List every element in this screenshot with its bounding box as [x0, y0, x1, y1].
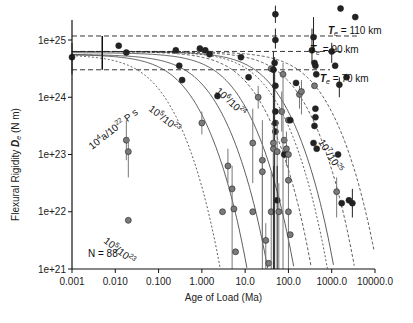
- data-point: [311, 140, 317, 146]
- data-point: [250, 140, 256, 146]
- data-point: [272, 37, 278, 43]
- data-point: [225, 163, 231, 169]
- data-point: [270, 67, 276, 73]
- x-tick-label: 10.0: [235, 276, 255, 287]
- data-point: [274, 149, 280, 155]
- data-point: [283, 146, 289, 152]
- y-tick-label: 1e+24: [38, 92, 67, 103]
- data-point: [270, 140, 276, 146]
- data-point: [293, 80, 299, 86]
- data-point: [334, 189, 340, 195]
- data-point: [229, 186, 235, 192]
- chart: 0.0010.0100.1001.00010.0100.01000.010000…: [0, 0, 413, 323]
- curve-label: 105/1023: [147, 102, 183, 134]
- data-point: [231, 206, 237, 212]
- data-point: [123, 50, 129, 56]
- n-count-label: N = 88: [88, 248, 118, 259]
- data-point: [179, 77, 185, 83]
- curve-label: 106/1024: [214, 85, 249, 119]
- relaxation-curve: [72, 56, 220, 268]
- x-axis-title: Age of Load (Ma): [185, 292, 262, 303]
- x-tick-label: 0.010: [103, 276, 128, 287]
- data-point: [272, 11, 278, 17]
- data-point: [311, 83, 317, 89]
- curve-label: 104a/1022 P s: [86, 106, 140, 152]
- y-tick-label: 1e+21: [38, 264, 67, 275]
- y-axis-title: Flexural Rigidity De (N m): [10, 108, 22, 221]
- data-point: [272, 60, 278, 66]
- data-point: [349, 200, 355, 206]
- x-tick-label: 0.001: [59, 276, 84, 287]
- data-point: [263, 237, 269, 243]
- data-point: [125, 149, 131, 155]
- data-point: [199, 120, 205, 126]
- data-point: [311, 34, 317, 40]
- data-point: [272, 83, 278, 89]
- data-point: [276, 209, 282, 215]
- x-tick-label: 1.000: [189, 276, 214, 287]
- data-point: [285, 177, 291, 183]
- data-point: [116, 43, 122, 49]
- data-point: [238, 54, 244, 60]
- data-point: [312, 63, 318, 69]
- data-point: [272, 109, 278, 115]
- data-point: [285, 152, 291, 158]
- data-point: [312, 114, 318, 120]
- y-tick-label: 1e+22: [38, 206, 67, 217]
- x-tick-label: 100.0: [276, 276, 301, 287]
- data-point: [285, 209, 291, 215]
- data-point: [176, 63, 182, 69]
- data-point: [250, 209, 256, 215]
- data-point: [339, 200, 345, 206]
- data-point: [280, 71, 286, 77]
- data-point: [312, 106, 318, 112]
- data-point: [197, 46, 203, 52]
- data-point: [287, 117, 293, 123]
- data-point: [173, 47, 179, 53]
- te-label: Te = 70 km: [320, 73, 369, 85]
- data-point: [338, 6, 344, 12]
- data-point: [279, 109, 285, 115]
- data-point: [298, 89, 304, 95]
- x-tick-label: 10000.0: [357, 276, 394, 287]
- data-point: [332, 63, 338, 69]
- data-point: [233, 249, 239, 255]
- data-point: [255, 94, 261, 100]
- y-tick-label: 1e+25: [38, 35, 67, 46]
- data-point: [220, 209, 226, 215]
- data-point: [287, 232, 293, 238]
- te-label: Te = 90 km: [310, 44, 359, 56]
- data-point: [313, 71, 319, 77]
- data-point: [206, 51, 212, 57]
- x-tick-label: 0.100: [146, 276, 171, 287]
- x-tick-label: 1000.0: [316, 276, 347, 287]
- data-point: [311, 123, 317, 129]
- te-label: Te = 110 km: [328, 25, 381, 37]
- relaxation-curve: [72, 55, 268, 269]
- data-point: [352, 14, 358, 20]
- data-point: [259, 169, 265, 175]
- data-point: [246, 74, 252, 80]
- y-tick-label: 1e+23: [38, 149, 67, 160]
- data-point: [125, 217, 131, 223]
